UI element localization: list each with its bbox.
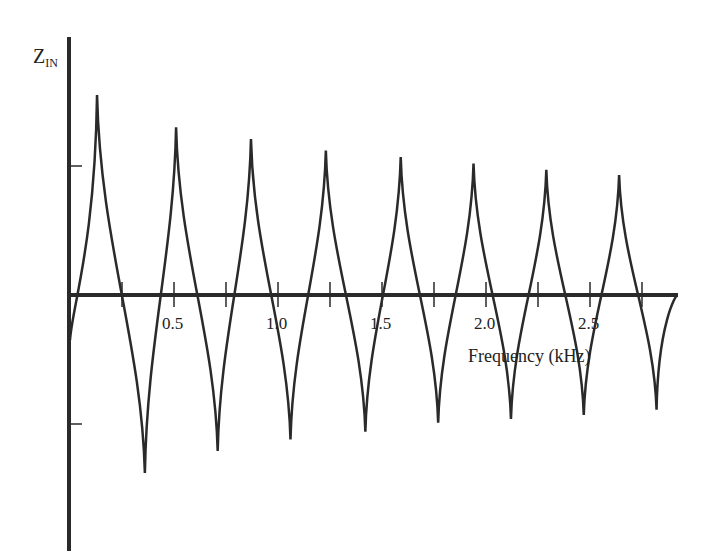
x-axis-label: Frequency (kHz) [468, 346, 590, 367]
y-label-subscript: IN [45, 56, 58, 70]
impedance-chart [0, 0, 703, 560]
impedance-curve [70, 95, 677, 473]
x-tick-label-1.0: 1.0 [266, 314, 287, 334]
y-axis-label: ZIN [33, 45, 58, 71]
x-tick-label-2.0: 2.0 [474, 314, 495, 334]
x-tick-label-2.5: 2.5 [578, 314, 599, 334]
y-label-main: Z [33, 45, 45, 67]
x-tick-label-0.5: 0.5 [162, 314, 183, 334]
x-tick-label-1.5: 1.5 [370, 314, 391, 334]
